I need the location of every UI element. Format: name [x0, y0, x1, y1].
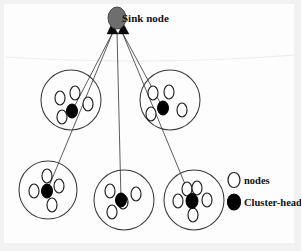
- cluster-top-right-node-4[interactable]: [146, 107, 156, 121]
- legend-item-2: Cluster-heads: [228, 194, 302, 210]
- page-top-shade: [0, 0, 301, 4]
- cluster-bottom-middle-cluster-head[interactable]: [116, 193, 127, 207]
- cluster-bottom-left-cluster-head[interactable]: [42, 184, 53, 198]
- cluster-bottom-right-node-2[interactable]: [192, 181, 202, 195]
- cluster-top-left[interactable]: [41, 70, 101, 130]
- figure-container: Sink node nodesCluster-heads: [0, 0, 301, 251]
- cluster-bottom-left-node-3[interactable]: [54, 179, 64, 193]
- cluster-bottom-right-node-4[interactable]: [202, 193, 212, 207]
- cluster-bottom-left-node-2[interactable]: [29, 184, 39, 198]
- legend-swatch-white-ellipse: [228, 173, 240, 188]
- cluster-bottom-middle-node-1[interactable]: [105, 184, 115, 198]
- cluster-bottom-right-cluster-head[interactable]: [186, 194, 198, 209]
- cluster-bottom-right-node-5[interactable]: [188, 208, 198, 222]
- cluster-top-left-node-3[interactable]: [83, 97, 93, 111]
- scan-streak: [5, 55, 296, 61]
- cluster-top-right[interactable]: [140, 70, 200, 130]
- cluster-top-left-node-2[interactable]: [70, 86, 80, 100]
- sink-node[interactable]: Sink node: [108, 7, 169, 29]
- legend: nodesCluster-heads: [228, 173, 302, 211]
- cluster-bottom-left-node-4[interactable]: [47, 198, 57, 212]
- cluster-bottom-middle-node-4[interactable]: [107, 205, 117, 219]
- cluster-top-left-node-1[interactable]: [55, 91, 65, 105]
- page-bottom-shade: [0, 243, 301, 251]
- cluster-bottom-middle[interactable]: [94, 170, 154, 230]
- cluster-top-left-cluster-head[interactable]: [67, 104, 78, 118]
- cluster-bottom-left-node-1[interactable]: [42, 169, 52, 183]
- cluster-bottom-left[interactable]: [19, 161, 77, 219]
- sink-node-label: Sink node: [122, 12, 169, 24]
- cluster-top-right-node-2[interactable]: [164, 85, 174, 99]
- cluster-group: [19, 70, 224, 230]
- page-right-shade: [294, 0, 301, 251]
- legend-label-2: Cluster-heads: [244, 197, 301, 208]
- legend-swatch-black-ellipse: [228, 194, 241, 210]
- cluster-bottom-right[interactable]: [164, 170, 224, 230]
- link-sink-to-bottom-middle: [117, 32, 121, 200]
- legend-label-1: nodes: [244, 175, 270, 186]
- cluster-top-right-node-1[interactable]: [148, 86, 158, 100]
- cluster-top-left-node-4[interactable]: [57, 110, 67, 124]
- network-diagram: Sink node nodesCluster-heads: [0, 0, 301, 251]
- link-sink-to-bottom-left: [47, 32, 113, 191]
- cluster-top-right-node-3[interactable]: [177, 103, 187, 117]
- cluster-bottom-right-node-3[interactable]: [173, 194, 183, 208]
- cluster-bottom-middle-node-2[interactable]: [131, 187, 141, 201]
- legend-item-1: nodes: [228, 173, 270, 188]
- cluster-top-right-cluster-head[interactable]: [158, 101, 169, 115]
- page-left-shade: [0, 0, 4, 251]
